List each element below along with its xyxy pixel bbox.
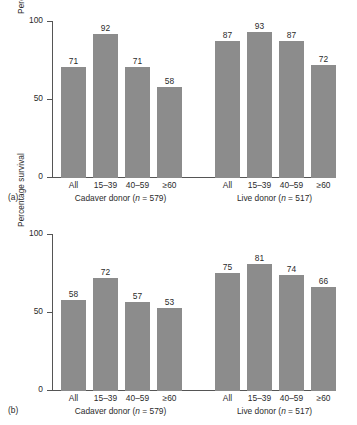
x-category-label: All bbox=[212, 180, 243, 190]
bar-value-label: 72 bbox=[308, 54, 339, 64]
figure-container: Percentage survival 100 50 0 71 92 71 bbox=[0, 0, 357, 425]
bar-slot: 87 bbox=[276, 21, 307, 178]
bar-value-label: 87 bbox=[212, 30, 243, 40]
x-category-label: 40–59 bbox=[276, 393, 307, 403]
x-category-label: ≥60 bbox=[308, 393, 339, 403]
x-category-label: 15–39 bbox=[244, 393, 275, 403]
bar bbox=[125, 67, 150, 178]
group-caption-cadaver-a: Cadaver donor (n = 579) bbox=[58, 193, 183, 203]
bar-value-label: 81 bbox=[244, 253, 275, 263]
x-category-labels-cadaver-a: All 15–39 40–59 ≥60 bbox=[58, 180, 183, 192]
bar bbox=[61, 300, 86, 391]
bar-value-label: 58 bbox=[58, 289, 89, 299]
bar-value-label: 74 bbox=[276, 264, 307, 274]
bar-value-label: 71 bbox=[58, 56, 89, 66]
chart-panel-a: Percentage survival 100 50 0 71 92 71 bbox=[0, 0, 357, 212]
bar bbox=[125, 302, 150, 391]
y-axis-label-text: Percentage survival bbox=[17, 153, 26, 227]
bar-slot: 58 bbox=[58, 234, 89, 391]
x-category-label: ≥60 bbox=[154, 180, 185, 190]
bar-slot: 58 bbox=[154, 21, 185, 178]
x-category-label: 15–39 bbox=[90, 393, 121, 403]
caption-suffix: = 579) bbox=[140, 193, 166, 203]
bar-group-live-a: 87 93 87 72 bbox=[212, 21, 337, 178]
bar bbox=[93, 34, 118, 178]
panel-label-b: (b) bbox=[8, 405, 18, 415]
bar bbox=[157, 87, 182, 178]
bar-slot: 81 bbox=[244, 234, 275, 391]
bar-slot: 93 bbox=[244, 21, 275, 178]
bar-value-label: 72 bbox=[90, 267, 121, 277]
bar bbox=[311, 287, 336, 391]
x-category-label: 15–39 bbox=[90, 180, 121, 190]
x-category-label: ≥60 bbox=[308, 180, 339, 190]
bar bbox=[247, 264, 272, 391]
group-caption-live-a: Live donor (n = 517) bbox=[212, 193, 337, 203]
x-category-labels-cadaver-b: All 15–39 40–59 ≥60 bbox=[58, 393, 183, 405]
bar-slot: 66 bbox=[308, 234, 339, 391]
caption-prefix: Live donor ( bbox=[237, 406, 281, 416]
group-caption-cadaver-b: Cadaver donor (n = 579) bbox=[58, 406, 183, 416]
bar bbox=[279, 275, 304, 391]
bar-slot: 87 bbox=[212, 21, 243, 178]
bar-slot: 71 bbox=[58, 21, 89, 178]
y-tick-label-50: 50 bbox=[15, 93, 43, 103]
bar-group-live-b: 75 81 74 66 bbox=[212, 234, 337, 391]
bar-slot: 57 bbox=[122, 234, 153, 391]
x-category-label: All bbox=[58, 393, 89, 403]
y-tick-label-0: 0 bbox=[15, 384, 43, 394]
y-axis-label-text: Percentage survival bbox=[17, 0, 26, 14]
bar bbox=[247, 32, 272, 178]
bar-slot: 72 bbox=[90, 234, 121, 391]
x-category-labels-live-a: All 15–39 40–59 ≥60 bbox=[212, 180, 337, 192]
caption-prefix: Live donor ( bbox=[237, 193, 281, 203]
x-category-label: 15–39 bbox=[244, 180, 275, 190]
bar bbox=[61, 67, 86, 178]
caption-suffix: = 517) bbox=[286, 406, 312, 416]
plot-area-a: 71 92 71 58 87 bbox=[52, 21, 336, 178]
bar-slot: 74 bbox=[276, 234, 307, 391]
bar-value-label: 66 bbox=[308, 276, 339, 286]
bar-value-label: 71 bbox=[122, 56, 153, 66]
x-category-label: 40–59 bbox=[122, 393, 153, 403]
bar bbox=[215, 273, 240, 391]
plot-area-b: 58 72 57 53 75 bbox=[52, 234, 336, 391]
chart-panel-b: Percentage survival 100 50 0 58 72 57 bbox=[0, 213, 357, 425]
x-category-label: All bbox=[58, 180, 89, 190]
x-category-label: All bbox=[212, 393, 243, 403]
bar-value-label: 53 bbox=[154, 297, 185, 307]
bar-group-cadaver-a: 71 92 71 58 bbox=[58, 21, 183, 178]
bar bbox=[279, 41, 304, 178]
bar-value-label: 57 bbox=[122, 291, 153, 301]
y-tick-label-50: 50 bbox=[15, 306, 43, 316]
caption-suffix: = 517) bbox=[286, 193, 312, 203]
x-category-labels-live-b: All 15–39 40–59 ≥60 bbox=[212, 393, 337, 405]
bar bbox=[311, 65, 336, 178]
bar-slot: 75 bbox=[212, 234, 243, 391]
caption-suffix: = 579) bbox=[140, 406, 166, 416]
y-tick-label-100: 100 bbox=[15, 15, 43, 25]
x-category-label: 40–59 bbox=[276, 180, 307, 190]
bar bbox=[93, 278, 118, 391]
bar-value-label: 87 bbox=[276, 30, 307, 40]
bar-group-cadaver-b: 58 72 57 53 bbox=[58, 234, 183, 391]
bar-slot: 71 bbox=[122, 21, 153, 178]
bar-value-label: 92 bbox=[90, 23, 121, 33]
bar-value-label: 93 bbox=[244, 21, 275, 31]
caption-prefix: Cadaver donor ( bbox=[75, 193, 136, 203]
group-caption-live-b: Live donor (n = 517) bbox=[212, 406, 337, 416]
bar bbox=[157, 308, 182, 391]
bar-value-label: 58 bbox=[154, 76, 185, 86]
bar-value-label: 75 bbox=[212, 262, 243, 272]
bar bbox=[215, 41, 240, 178]
x-category-label: ≥60 bbox=[154, 393, 185, 403]
x-category-label: 40–59 bbox=[122, 180, 153, 190]
bar-slot: 53 bbox=[154, 234, 185, 391]
bar-slot: 72 bbox=[308, 21, 339, 178]
y-tick-label-100: 100 bbox=[15, 228, 43, 238]
bar-slot: 92 bbox=[90, 21, 121, 178]
caption-prefix: Cadaver donor ( bbox=[75, 406, 136, 416]
